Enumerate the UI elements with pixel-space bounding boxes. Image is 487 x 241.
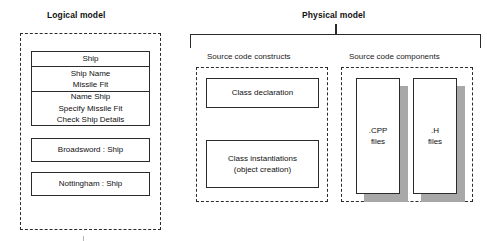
class-operation-2: Check Ship Details: [57, 114, 125, 126]
object-label-nottingham: Nottingham : Ship: [59, 178, 123, 190]
construct-box-class-instantiations[interactable]: Class instantiations (object creation): [206, 140, 319, 188]
diagram-canvas: Logical model Ship Ship Name Missile Fit…: [0, 0, 487, 241]
class-operation-0: Name Ship: [71, 91, 111, 103]
object-box-nottingham[interactable]: Nottingham : Ship: [31, 172, 150, 196]
component-face: .CPP files: [356, 78, 400, 194]
class-attributes-compartment: Ship Name Missile Fit: [32, 67, 149, 92]
construct-label-class-instantiations-line2: (object creation): [234, 164, 291, 176]
source-code-components-caption: Source code components: [349, 52, 440, 61]
class-name-compartment: Ship: [32, 52, 149, 67]
component-label-cpp-line1: .CPP: [369, 125, 388, 137]
component-label-h-line1: .H: [431, 125, 439, 137]
scan-artifact-mark: [83, 236, 84, 241]
class-operations-compartment: Name Ship Specify Missile Fit Check Ship…: [32, 92, 149, 125]
source-code-constructs-caption: Source code constructs: [207, 52, 291, 61]
class-attribute-0: Ship Name: [71, 68, 111, 80]
component-label-h-line2: files: [428, 136, 442, 148]
component-face: .H files: [413, 78, 457, 194]
class-name-label: Ship: [82, 53, 98, 65]
construct-box-class-declaration[interactable]: Class declaration: [206, 78, 319, 108]
object-label-broadsword: Broadsword : Ship: [58, 144, 123, 156]
class-attribute-1: Missile Fit: [73, 79, 109, 91]
physical-model-bracket: [190, 34, 481, 48]
class-box-ship[interactable]: Ship Ship Name Missile Fit Name Ship Spe…: [31, 51, 150, 126]
component-box-cpp-files[interactable]: .CPP files: [356, 78, 400, 194]
component-box-h-files[interactable]: .H files: [413, 78, 457, 194]
physical-model-title: Physical model: [302, 10, 365, 20]
construct-label-class-declaration-line1: Class declaration: [232, 87, 293, 99]
construct-label-class-instantiations-line1: Class instantiations: [228, 153, 297, 165]
object-box-broadsword[interactable]: Broadsword : Ship: [31, 138, 150, 162]
logical-model-title: Logical model: [47, 10, 105, 20]
component-label-cpp-line2: files: [371, 136, 385, 148]
class-operation-1: Specify Missile Fit: [58, 103, 122, 115]
